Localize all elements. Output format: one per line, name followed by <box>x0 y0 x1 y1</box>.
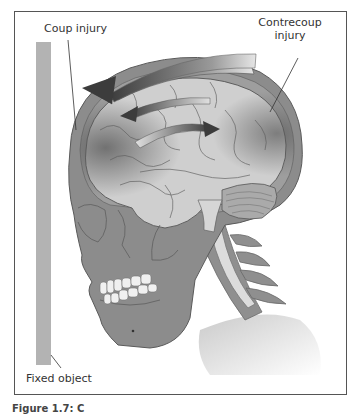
fixed-object-bar <box>36 42 51 365</box>
coup-leader-line <box>68 40 76 130</box>
figure-caption: Figure 1.7: C <box>12 403 84 414</box>
contrecoup-label-line1: Contrecoup <box>255 16 325 29</box>
fixed-object-label: Fixed object <box>26 372 92 385</box>
contrecoup-label-line2: injury <box>255 29 325 42</box>
coup-injury-label: Coup injury <box>44 22 107 35</box>
fixed-object-leader-line <box>51 355 61 368</box>
contrecoup-injury-label: Contrecoup injury <box>255 16 325 42</box>
